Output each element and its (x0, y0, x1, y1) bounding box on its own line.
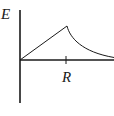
field-diagram (0, 0, 114, 116)
x-tick-label-r: R (62, 70, 71, 85)
outside-inverse-square-curve (67, 26, 114, 58)
inside-linear-segment (20, 26, 67, 60)
y-axis-label: E (1, 7, 10, 22)
